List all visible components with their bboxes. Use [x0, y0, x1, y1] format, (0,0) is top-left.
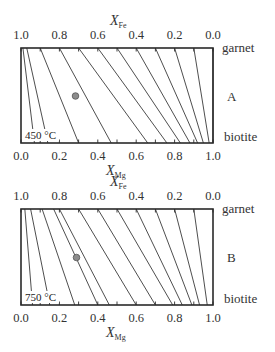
tie-line — [117, 48, 180, 143]
panel-a: 450 °C1.00.80.60.40.20.00.00.20.40.60.81… — [13, 13, 257, 180]
bottom-tick-label: 0.2 — [52, 311, 68, 325]
tie-line — [155, 48, 197, 143]
tie-line — [79, 48, 148, 143]
bottom-tick-label: 1.0 — [205, 149, 221, 163]
bottom-axis-title: XMg — [105, 325, 126, 342]
bottom-tick-label: 0.6 — [128, 311, 144, 325]
tie-line — [175, 48, 204, 143]
bottom-tick-label: 0.8 — [167, 311, 183, 325]
axis-title-subscript: Fe — [119, 21, 127, 30]
bottom-tick-label: 0.0 — [13, 149, 29, 163]
bottom-tick-label: 0.6 — [128, 149, 144, 163]
panel-b: 750 °C1.00.80.60.40.20.00.00.20.40.60.81… — [13, 174, 257, 342]
top-tick-label: 1.0 — [13, 28, 29, 42]
tie-line — [136, 209, 182, 305]
temperature-label: 750 °C — [25, 291, 56, 303]
tie-line — [155, 209, 191, 305]
top-tick-label: 0.8 — [52, 28, 68, 42]
top-tick-label: 1.0 — [13, 189, 29, 203]
axis-title-subscript: Mg — [115, 333, 126, 342]
panel-label: B — [227, 250, 236, 265]
axis-title-symbol: X — [109, 174, 119, 189]
tie-line — [98, 209, 156, 305]
bottom-tick-label: 0.4 — [90, 149, 106, 163]
axis-title-symbol: X — [105, 325, 115, 340]
top-tick-label: 0.2 — [167, 28, 183, 42]
top-tick-label: 0.4 — [128, 189, 144, 203]
tie-line — [59, 48, 111, 143]
tie-line — [194, 48, 209, 143]
garnet-label: garnet — [222, 201, 255, 216]
biotite-label: biotite — [224, 129, 257, 144]
top-tick-label: 0.6 — [90, 28, 106, 42]
bottom-tick-label: 1.0 — [205, 311, 221, 325]
top-tick-label: 0.2 — [167, 189, 183, 203]
biotite-label: biotite — [224, 291, 257, 306]
tie-line — [79, 209, 137, 305]
sample-point — [73, 254, 80, 261]
bottom-tick-label: 0.4 — [90, 311, 106, 325]
panel-label: A — [227, 89, 237, 104]
axis-title-subscript: Fe — [119, 182, 127, 191]
sample-point — [72, 93, 79, 100]
garnet-label: garnet — [222, 40, 255, 55]
bottom-tick-label: 0.0 — [13, 311, 29, 325]
top-tick-label: 0.4 — [128, 28, 144, 42]
bottom-tick-label: 0.8 — [167, 149, 183, 163]
bottom-tick-label: 0.2 — [52, 149, 68, 163]
top-tick-label: 0.0 — [205, 28, 221, 42]
top-tick-label: 0.0 — [205, 189, 221, 203]
tie-line — [59, 209, 109, 305]
axis-title-symbol: X — [109, 13, 119, 28]
temperature-label: 450 °C — [25, 129, 56, 141]
top-tick-label: 0.6 — [90, 189, 106, 203]
top-tick-label: 0.8 — [52, 189, 68, 203]
tie-line — [98, 48, 167, 143]
tie-line — [117, 209, 173, 305]
top-axis-title: XFe — [109, 13, 127, 30]
garnet-biotite-partition-diagram: 450 °C1.00.80.60.40.20.00.00.20.40.60.81… — [0, 0, 275, 352]
tie-line — [136, 48, 190, 143]
